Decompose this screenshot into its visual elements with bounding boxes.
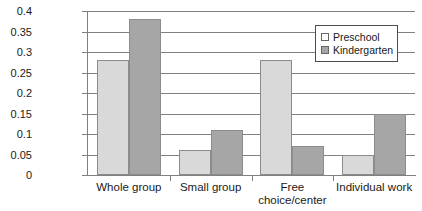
- y-tick-label: 0.2: [0, 88, 32, 99]
- legend-item-kindergarten: Kindergarten: [321, 44, 392, 56]
- category-label: Individual work: [333, 181, 415, 194]
- legend-item-preschool: Preschool: [321, 31, 392, 43]
- legend-label-preschool: Preschool: [333, 32, 380, 43]
- y-tick-label: 0.4: [0, 6, 32, 17]
- bar-kindergarten: [292, 146, 324, 175]
- y-tick-label: 0.25: [0, 67, 32, 78]
- category-label: Free choice/center: [252, 181, 334, 207]
- bar-kindergarten: [211, 130, 243, 175]
- y-tick-label: 0.3: [0, 47, 32, 58]
- y-tick-label: 0.1: [0, 129, 32, 140]
- legend-label-kindergarten: Kindergarten: [333, 45, 393, 56]
- y-tick-label: 0.35: [0, 26, 32, 37]
- bar-preschool: [260, 60, 292, 175]
- y-tick-label: 0.05: [0, 149, 32, 160]
- bar-kindergarten: [374, 114, 406, 176]
- chart-legend: Preschool Kindergarten: [315, 25, 398, 62]
- category-label: Whole group: [88, 181, 170, 194]
- bar-chart: 00.050.10.150.20.250.30.350.4 Whole grou…: [0, 0, 422, 211]
- legend-swatch-kindergarten-icon: [321, 46, 329, 54]
- bar-preschool: [342, 155, 374, 176]
- y-tick-label: 0: [0, 170, 32, 181]
- gridline: [88, 11, 415, 12]
- bar-kindergarten: [129, 19, 161, 175]
- y-tick-label: 0.15: [0, 108, 32, 119]
- category-label: Small group: [170, 181, 252, 194]
- bar-preschool: [97, 60, 129, 175]
- bar-preschool: [179, 150, 211, 175]
- legend-swatch-preschool-icon: [321, 33, 329, 41]
